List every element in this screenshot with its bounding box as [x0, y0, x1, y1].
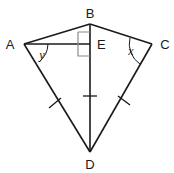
segment-AD	[24, 44, 90, 152]
right-angle-icon-upper	[78, 32, 90, 44]
angle-label-x: x	[127, 44, 134, 58]
vertex-label-B: B	[86, 6, 95, 21]
geometry-figure-container: A B C D E y x	[0, 0, 174, 173]
vertex-label-C: C	[160, 37, 169, 52]
segment-AB	[24, 24, 90, 44]
right-angle-icon	[78, 44, 90, 56]
angle-label-y: y	[38, 48, 45, 62]
vertex-label-A: A	[6, 37, 15, 52]
vertex-label-D: D	[85, 157, 94, 172]
vertex-label-E: E	[97, 37, 106, 52]
geometry-diagram: A B C D E y x	[0, 0, 174, 173]
